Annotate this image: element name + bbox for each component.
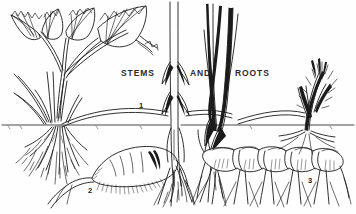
label-and: AND [190, 68, 211, 78]
callout-number-2: 2 [88, 186, 92, 195]
label-roots: ROOTS [235, 68, 270, 78]
figure-artwork: .ln { fill:none; stroke:#1b1b1b; stroke-… [0, 0, 356, 214]
callout-number-3: 3 [308, 176, 312, 185]
callout-number-1: 1 [139, 101, 143, 110]
botanical-figure: .ln { fill:none; stroke:#1b1b1b; stroke-… [0, 0, 356, 214]
label-stems: STEMS [121, 68, 155, 78]
